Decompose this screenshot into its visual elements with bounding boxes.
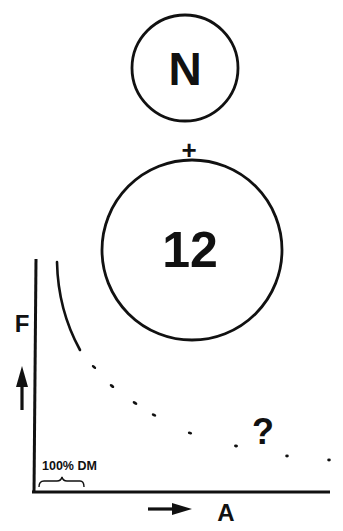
y-axis-label: F [15,310,30,337]
circle-12-label: 12 [162,222,218,278]
reference-label-100-dm: 100% DM [42,459,97,473]
reference-brace [39,477,84,487]
curve-dashed-segment [91,364,331,461]
up-arrow-icon [16,366,28,410]
circle-n-group: N [132,15,238,121]
right-arrow-icon [148,503,192,515]
y-axis [34,259,36,493]
diagram-canvas: N + 12 F ? 100% DM A [0,0,343,531]
circle-12-group: 12 [102,160,282,340]
circle-n-label: N [168,43,201,95]
unknown-question-mark: ? [252,411,274,452]
curve-solid-segment [57,262,80,350]
x-axis-label: A [217,499,234,526]
graph-axes [32,259,330,493]
